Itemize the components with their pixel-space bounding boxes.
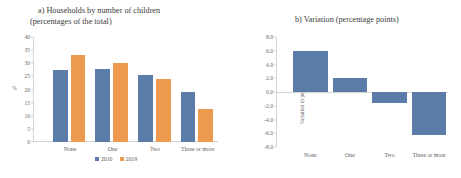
bar-variation-none[interactable]	[293, 51, 327, 92]
panel-b-ytick-4: 4.0	[266, 62, 273, 68]
panel-b-variation: b) Variation (percentage points) Variati…	[232, 0, 461, 178]
panel-a-ytick-5: 5	[27, 126, 30, 132]
panel-b-title: b) Variation (percentage points)	[295, 14, 399, 25]
panel-a-ytick-15: 15	[24, 100, 30, 106]
legend-item-2010[interactable]: 2010	[95, 156, 113, 162]
panel-a-plot-area: 40 35 30 25 20 15 10 5 0 None	[33, 37, 218, 142]
bar-group-none: None	[50, 37, 91, 142]
panel-a-y-axis-line	[33, 37, 34, 142]
xtick-b-none: None	[293, 152, 327, 158]
xtick-b-two: Two	[372, 152, 406, 158]
panel-a-ytick-10: 10	[24, 113, 30, 119]
bar-group-one: One	[92, 37, 133, 142]
panel-b-ytick-neg6: -6.0	[264, 130, 273, 136]
bar-group-var-two: Two	[372, 37, 406, 147]
bar-2010-none[interactable]	[53, 70, 68, 142]
panel-b-ytick-6: 6.0	[266, 48, 273, 54]
panel-b-ytick-2: 2.0	[266, 75, 273, 81]
legend-item-2019[interactable]: 2019	[120, 156, 138, 162]
xtick-three-or-more: Three or more	[177, 146, 218, 152]
bar-variation-one[interactable]	[333, 78, 367, 92]
panel-a-ytick-30: 30	[24, 60, 30, 66]
panel-b-ytick-neg8: -8.0	[264, 144, 273, 150]
panel-a-ytick-0: 0	[27, 139, 30, 145]
bar-2019-three-or-more[interactable]	[198, 109, 213, 142]
panel-b-plot-area: Variation in percentage points 8.0 6.0 4…	[276, 37, 448, 147]
xtick-two: Two	[135, 146, 176, 152]
panel-b-ytick-neg4: -4.0	[264, 117, 273, 123]
legend-swatch-icon-2019	[120, 157, 124, 161]
panel-a-ytick-40: 40	[24, 34, 30, 40]
bar-group-var-none: None	[293, 37, 327, 147]
panel-a-y-axis-title: %	[12, 85, 17, 91]
legend-label-2019: 2019	[126, 156, 138, 162]
panel-a-subtitle: (percentages of the total)	[30, 16, 112, 27]
panel-a-ytick-25: 25	[24, 73, 30, 79]
panel-b-ytick-8: 8.0	[266, 34, 273, 40]
bar-2010-three-or-more[interactable]	[181, 92, 196, 142]
bar-2010-two[interactable]	[138, 75, 153, 142]
panel-b-ytick-neg2: -2.0	[264, 103, 273, 109]
bar-group-var-one: One	[333, 37, 367, 147]
panel-a-legend: 2010 2019	[0, 156, 232, 162]
panel-a-ytick-35: 35	[24, 47, 30, 53]
bar-2010-one[interactable]	[95, 69, 110, 142]
panel-b-ytick-0: 0.0	[266, 89, 273, 95]
legend-swatch-icon-2010	[95, 157, 99, 161]
panel-a-households: a) Households by number of children (per…	[0, 0, 232, 178]
bar-group-two: Two	[135, 37, 176, 142]
xtick-b-three-or-more: Three or more	[412, 152, 446, 158]
panel-a-title: a) Households by number of children	[38, 5, 160, 16]
bar-group-three-or-more: Three or more	[177, 37, 218, 142]
bar-2019-one[interactable]	[113, 63, 128, 142]
bar-2019-two[interactable]	[156, 79, 171, 142]
bar-variation-two[interactable]	[372, 92, 406, 103]
xtick-one: One	[92, 146, 133, 152]
xtick-b-one: One	[333, 152, 367, 158]
panel-a-ytick-20: 20	[24, 87, 30, 93]
figure-container: a) Households by number of children (per…	[0, 0, 461, 178]
xtick-none: None	[50, 146, 91, 152]
bar-group-var-three-or-more: Three or more	[412, 37, 446, 147]
bar-variation-three-or-more[interactable]	[412, 92, 446, 135]
legend-label-2010: 2010	[101, 156, 113, 162]
bar-2019-none[interactable]	[71, 55, 86, 142]
